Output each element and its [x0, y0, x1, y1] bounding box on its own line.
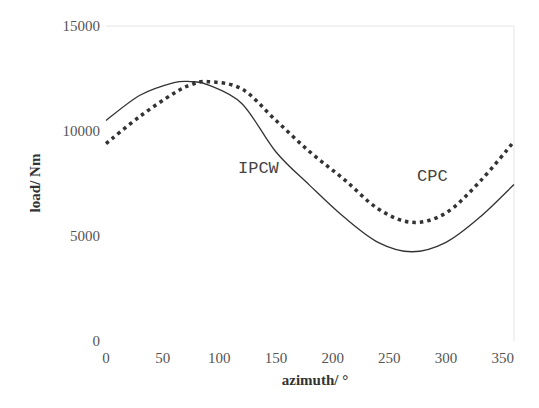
x-tick-label: 200	[321, 350, 344, 366]
series-cpc-line	[106, 82, 514, 223]
series-ipcw-line	[106, 81, 514, 252]
x-tick-label: 150	[265, 350, 288, 366]
x-axis-label: azimuth/ °	[282, 372, 348, 388]
x-tick-label: 50	[155, 350, 170, 366]
series-label-ipcw: IPCW	[238, 159, 280, 178]
line-chart: 050001000015000 050100150200250300350 az…	[0, 0, 539, 408]
y-tick-label: 10000	[63, 123, 101, 139]
x-tick-label: 0	[102, 350, 110, 366]
series-label-cpc: CPC	[417, 167, 448, 186]
y-axis-ticks: 050001000015000	[63, 18, 101, 349]
plot-frame	[106, 26, 514, 341]
y-tick-label: 5000	[70, 228, 100, 244]
x-tick-label: 300	[435, 350, 458, 366]
x-tick-label: 100	[208, 350, 231, 366]
x-tick-label: 350	[491, 350, 514, 366]
x-tick-label: 250	[378, 350, 401, 366]
x-axis-ticks: 050100150200250300350	[102, 350, 514, 366]
series-group	[106, 81, 514, 252]
y-tick-label: 0	[93, 333, 101, 349]
y-tick-label: 15000	[63, 18, 101, 34]
y-axis-label: load/ Nm	[27, 153, 43, 212]
